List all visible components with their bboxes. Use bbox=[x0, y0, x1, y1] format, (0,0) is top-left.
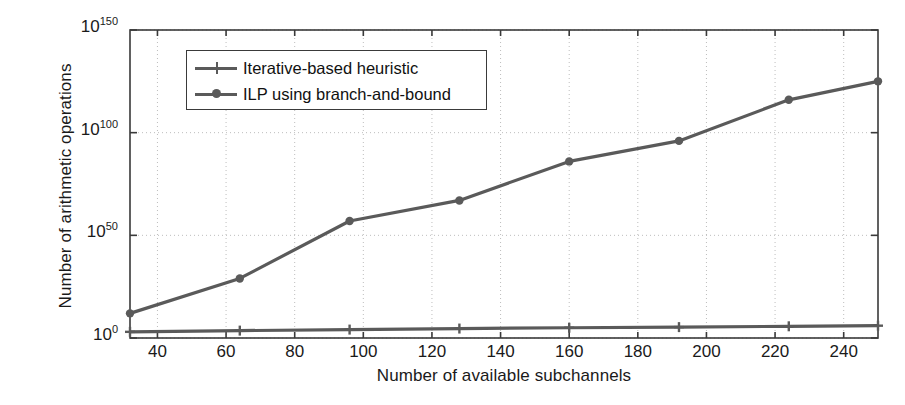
x-tick-label-140: 140 bbox=[471, 342, 531, 362]
y-tick-label-100: 10100 bbox=[22, 120, 118, 140]
x-tick-label-240: 240 bbox=[814, 342, 874, 362]
plus-marker-icon bbox=[195, 60, 237, 76]
x-tick-label-40: 40 bbox=[127, 342, 187, 362]
x-tick-label-100: 100 bbox=[333, 342, 393, 362]
y-axis-label: Number of arithmetic operations bbox=[56, 26, 76, 346]
x-tick-label-80: 80 bbox=[265, 342, 325, 362]
x-tick-label-180: 180 bbox=[608, 342, 668, 362]
x-tick-label-200: 200 bbox=[676, 342, 736, 362]
legend-label-ilp: ILP using branch-and-bound bbox=[243, 85, 451, 104]
legend-label-heuristic: Iterative-based heuristic bbox=[243, 59, 418, 78]
legend-item-heuristic[interactable]: Iterative-based heuristic bbox=[187, 55, 486, 81]
legend-item-ilp[interactable]: ILP using branch-and-bound bbox=[187, 81, 486, 107]
chart-legend: Iterative-based heuristic ILP using bran… bbox=[186, 50, 487, 110]
data-point-circle bbox=[874, 77, 882, 85]
y-tick-label-150: 10150 bbox=[22, 17, 118, 37]
x-axis-label: Number of available subchannels bbox=[130, 366, 878, 386]
x-tick-label-160: 160 bbox=[539, 342, 599, 362]
y-tick-label-0: 100 bbox=[22, 325, 118, 345]
data-point-circle bbox=[565, 157, 573, 165]
data-point-circle bbox=[455, 196, 463, 204]
y-tick-label-50: 1050 bbox=[22, 222, 118, 242]
data-point-circle bbox=[675, 137, 683, 145]
data-point-circle bbox=[785, 96, 793, 104]
circle-marker-icon bbox=[195, 86, 237, 102]
data-point-circle bbox=[126, 309, 134, 317]
data-point-circle bbox=[345, 217, 353, 225]
x-tick-label-60: 60 bbox=[196, 342, 256, 362]
x-tick-label-120: 120 bbox=[402, 342, 462, 362]
data-point-circle bbox=[236, 274, 244, 282]
figure-container: Number of arithmetic operations Number o… bbox=[0, 0, 905, 405]
x-tick-label-220: 220 bbox=[745, 342, 805, 362]
